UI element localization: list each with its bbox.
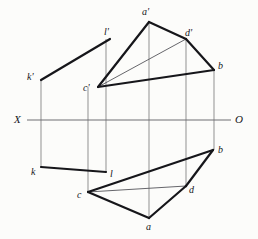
point-label-k-prime: k': [27, 72, 34, 82]
edge-dprime-bprime: [186, 39, 214, 70]
edge-d-a: [149, 186, 186, 218]
point-label-b: b: [218, 145, 223, 155]
edge-a-c: [88, 192, 149, 218]
horizontal-view-outline-group: [88, 150, 213, 218]
point-label-c: c: [77, 190, 81, 200]
point-label-k: k: [31, 167, 35, 177]
point-label-l-prime: l': [104, 27, 109, 37]
frontal-line-kl-group: [41, 39, 110, 80]
edge-kprime-lprime: [41, 39, 110, 80]
point-label-a-prime: a': [142, 7, 149, 17]
point-label-c-prime: c': [83, 83, 90, 93]
thin-connector-lines-group: [88, 39, 186, 192]
axis-label-o: O: [235, 114, 243, 125]
edge-cprime-bprime: [98, 70, 214, 87]
edge-aprime-dprime: [149, 22, 186, 39]
horizontal-line-kl-group: [41, 167, 106, 172]
point-label-b-prime: b: [218, 61, 223, 71]
edge-c-b: [88, 150, 213, 192]
engineering-drawing-figure: X O a' d' b c' k' l' k l b c d a: [0, 0, 258, 239]
projection-drawing-canvas: [0, 0, 258, 239]
point-label-d: d: [189, 185, 194, 195]
axis-label-x: X: [14, 114, 21, 125]
edge-k-l: [41, 167, 106, 172]
point-label-l: l: [110, 169, 113, 179]
point-label-a: a: [146, 222, 151, 232]
point-label-d-prime: d': [185, 28, 192, 38]
